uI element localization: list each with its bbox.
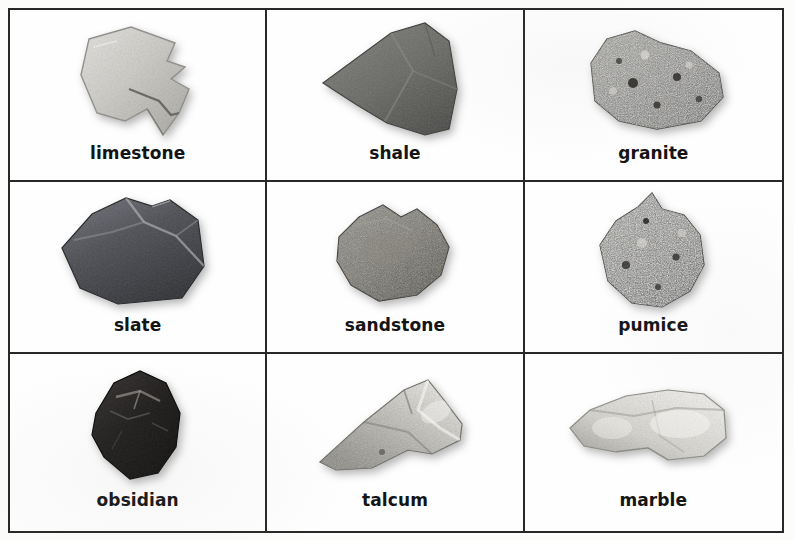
specimen-image-slate (10, 182, 265, 317)
rock-cell-sandstone[interactable]: sandstone (267, 182, 524, 354)
slate-rock-icon (52, 192, 224, 312)
specimen-image-shale (267, 10, 522, 145)
rock-label: marble (619, 492, 687, 531)
obsidian-rock-icon (78, 361, 198, 491)
rock-label: shale (369, 145, 421, 180)
rock-label: talcum (362, 492, 428, 531)
rock-label: obsidian (97, 492, 179, 531)
rock-label: slate (114, 317, 162, 352)
specimen-image-granite (525, 10, 782, 145)
rock-cell-shale[interactable]: shale (267, 10, 524, 182)
pumice-rock-icon (586, 187, 720, 317)
specimen-image-sandstone (267, 182, 522, 317)
shale-rock-icon (317, 17, 472, 143)
rock-cell-limestone[interactable]: limestone (10, 10, 267, 182)
rock-cell-marble[interactable]: marble (525, 354, 782, 531)
rock-label: limestone (90, 145, 185, 180)
talcum-rock-icon (312, 370, 478, 482)
rock-grid: limestone (8, 8, 784, 533)
rock-label: granite (618, 145, 688, 180)
specimen-image-pumice (525, 182, 782, 317)
sandstone-rock-icon (325, 191, 465, 313)
granite-rock-icon (573, 21, 733, 139)
specimen-image-marble (525, 354, 782, 492)
rock-cell-granite[interactable]: granite (525, 10, 782, 182)
specimen-image-obsidian (10, 354, 265, 492)
rock-cell-obsidian[interactable]: obsidian (10, 354, 267, 531)
rock-cell-pumice[interactable]: pumice (525, 182, 782, 354)
rock-label: sandstone (345, 317, 445, 352)
chart-page: limestone (0, 0, 794, 540)
rock-label: pumice (618, 317, 688, 352)
specimen-image-limestone (10, 10, 265, 145)
limestone-rock-icon (67, 17, 209, 143)
rock-cell-slate[interactable]: slate (10, 182, 267, 354)
rock-cell-talcum[interactable]: talcum (267, 354, 524, 531)
specimen-image-talcum (267, 354, 522, 492)
marble-rock-icon (564, 376, 742, 476)
